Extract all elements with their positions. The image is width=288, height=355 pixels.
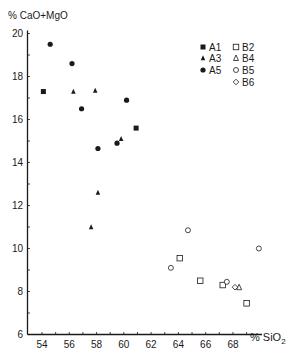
legend-open-diamond-icon (233, 79, 239, 85)
x-axis-label: % SiO2 (250, 331, 286, 346)
open-circle-marker (256, 246, 261, 251)
series-a3 (71, 88, 123, 230)
y-tick-label: 6 (17, 329, 23, 340)
legend-open-square-icon (233, 44, 239, 50)
open-square-marker (197, 278, 203, 284)
open-circle-marker (224, 279, 229, 284)
x-tick-label: 58 (91, 339, 103, 350)
legend-label: A3 (209, 53, 222, 64)
y-tick-label: 20 (12, 28, 24, 39)
legend-entry-a5: A5 (200, 65, 221, 76)
legend-open-circle-icon (234, 68, 239, 73)
legend-label: A5 (209, 65, 222, 76)
legend-open-triangle-icon (234, 55, 239, 61)
axes: 681012141618205456586062646668 (12, 28, 262, 350)
x-tick-label: 64 (173, 339, 185, 350)
legend-label: B5 (242, 65, 255, 76)
legend-entry-b5: B5 (234, 65, 255, 76)
filled-triangle-marker (71, 89, 76, 94)
legend-entry-b4: B4 (234, 53, 255, 64)
filled-triangle-marker (89, 224, 94, 229)
filled-circle-marker (79, 106, 84, 111)
data-points (41, 42, 262, 306)
legend-entry-a1: A1 (201, 42, 222, 53)
filled-square-marker (41, 89, 46, 94)
x-tick-label: 60 (118, 339, 130, 350)
legend-filled-circle-icon (200, 67, 205, 72)
legend-entry-b6: B6 (233, 77, 254, 88)
x-tick-label: 56 (64, 339, 76, 350)
series-a1 (41, 89, 139, 131)
legend-label: B4 (242, 53, 255, 64)
y-tick-label: 8 (17, 286, 23, 297)
y-tick-label: 10 (12, 243, 24, 254)
legend-label: B2 (242, 42, 255, 53)
legend-label: A1 (209, 42, 222, 53)
legend-filled-square-icon (201, 45, 206, 50)
series-a5 (48, 42, 130, 151)
series-b2 (177, 255, 249, 306)
legend: A1A3A5B2B4B5B6 (200, 42, 254, 88)
filled-circle-marker (48, 42, 53, 47)
scatter-chart: 681012141618205456586062646668 A1A3A5B2B… (0, 0, 288, 355)
y-axis-label: % CaO+MgO (8, 10, 68, 21)
y-tick-label: 12 (12, 200, 24, 211)
filled-circle-marker (124, 98, 129, 103)
filled-triangle-marker (119, 136, 124, 141)
legend-entry-b2: B2 (233, 42, 254, 53)
y-tick-label: 18 (12, 71, 24, 82)
x-tick-label: 54 (36, 339, 48, 350)
legend-label: B6 (242, 77, 255, 88)
open-circle-marker (168, 265, 173, 270)
y-tick-label: 14 (12, 157, 24, 168)
chart-canvas: 681012141618205456586062646668 A1A3A5B2B… (0, 0, 288, 355)
open-circle-marker (185, 228, 190, 233)
open-square-marker (244, 301, 250, 307)
legend-filled-triangle-icon (201, 55, 206, 60)
x-tick-label: 66 (200, 339, 212, 350)
filled-circle-marker (114, 141, 119, 146)
y-tick-label: 16 (12, 114, 24, 125)
filled-triangle-marker (96, 190, 101, 195)
filled-triangle-marker (93, 88, 98, 93)
x-tick-label: 62 (146, 339, 158, 350)
filled-circle-marker (69, 61, 74, 66)
filled-circle-marker (95, 146, 100, 151)
legend-entry-a3: A3 (201, 53, 222, 64)
x-tick-label: 68 (227, 339, 239, 350)
filled-square-marker (134, 126, 139, 131)
open-square-marker (177, 255, 183, 260)
